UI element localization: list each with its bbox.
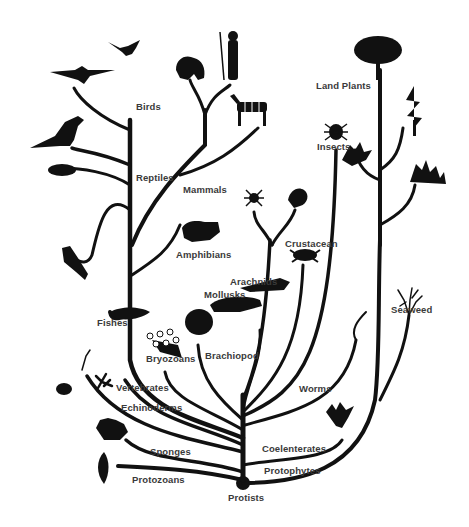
protozoan-icon xyxy=(98,452,109,484)
label-fishes: Fishes xyxy=(97,317,128,328)
branch-moss xyxy=(380,185,415,225)
spider-icon xyxy=(244,190,264,206)
brachiopod-shell-icon xyxy=(185,309,213,335)
label-echinoderms: Echinoderms xyxy=(121,402,182,413)
label-protozoans: Protozoans xyxy=(132,474,185,485)
branch-seaweed xyxy=(380,315,409,400)
branch-lizard xyxy=(77,205,130,262)
conifer-icon xyxy=(406,86,422,136)
label-protists: Protists xyxy=(228,492,264,503)
crab-icon xyxy=(290,249,320,262)
feather-icon xyxy=(82,350,90,370)
branch-dinosaur xyxy=(72,148,130,165)
label-land-plants: Land Plants xyxy=(316,80,371,91)
label-arachnids: Arachnids xyxy=(230,276,277,287)
dinosaur-icon xyxy=(30,116,84,148)
label-sponges: Sponges xyxy=(150,446,191,457)
beetle-icon xyxy=(324,124,348,140)
branch-pterosaur xyxy=(74,88,130,130)
branch-gorilla xyxy=(190,80,205,115)
label-bryozoans: Bryozoans xyxy=(146,353,195,364)
bird-icon xyxy=(108,40,140,56)
label-protophytes: Protophytes xyxy=(264,465,321,476)
pterosaur-icon xyxy=(50,66,115,84)
label-mammals: Mammals xyxy=(183,184,227,195)
branch-human xyxy=(205,85,230,115)
gorilla-icon xyxy=(176,57,205,81)
scorpion-icon xyxy=(288,188,307,208)
phylogenetic-tree xyxy=(0,0,469,527)
branch-arachnids xyxy=(243,240,270,400)
human-icon xyxy=(220,31,238,80)
label-seaweed: Seaweed xyxy=(391,304,432,315)
label-crustacean: Crustacean xyxy=(285,238,338,249)
label-birds: Birds xyxy=(136,101,161,112)
label-insects: Insects xyxy=(317,141,350,152)
label-reptiles: Reptiles xyxy=(136,172,174,183)
tree-icon xyxy=(354,36,402,80)
branch-zebra xyxy=(180,128,258,175)
moss-icon xyxy=(410,160,446,184)
label-amphibians: Amphibians xyxy=(176,249,231,260)
label-brachiopod: Brachiopod xyxy=(205,350,259,361)
turtle-icon xyxy=(48,164,76,176)
branch-worm-tip xyxy=(354,312,366,340)
label-vertebrates: Vertebrates xyxy=(116,382,169,393)
starfish-icon xyxy=(96,374,112,388)
sponge-icon xyxy=(96,418,128,440)
label-mollusks: Mollusks xyxy=(204,289,245,300)
jellyfish-icon xyxy=(326,402,354,428)
frog-icon xyxy=(182,221,220,242)
label-worms: Worms xyxy=(299,383,332,394)
zebra-icon xyxy=(230,94,267,126)
label-coelenterates: Coelenterates xyxy=(262,443,326,454)
sea-urchin-icon xyxy=(56,383,72,395)
branch-conifer xyxy=(380,128,403,170)
branch-spider-fork xyxy=(254,212,272,245)
